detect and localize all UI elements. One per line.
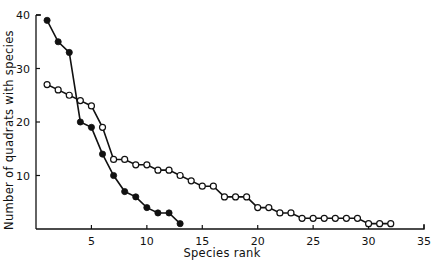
data-point [99,151,105,157]
x-tick-label: 5 [88,235,95,248]
series-open-markers [44,82,394,227]
y-tick-label: 30 [16,63,30,76]
data-point [111,156,117,162]
x-tick-label: 25 [306,235,320,248]
data-point [299,215,305,221]
data-point [388,221,394,227]
data-point [122,156,128,162]
data-point [288,210,294,216]
series-layer [44,17,394,226]
data-point [88,103,94,109]
series-line [47,85,391,224]
series-filled-markers [44,17,183,226]
data-point [111,172,117,178]
data-point [266,205,272,211]
y-axis-label: Number of quadrats with species [2,30,16,230]
data-point [321,215,327,221]
data-point [332,215,338,221]
x-tick-label: 35 [417,235,431,248]
data-point [66,49,72,55]
y-tick-label: 10 [16,170,30,183]
data-point [377,221,383,227]
x-tick-label: 10 [140,235,154,248]
species-rank-chart: 5101520253035 10203040 Species rank Numb… [0,0,438,264]
data-point [354,215,360,221]
data-point [44,82,50,88]
data-point [144,162,150,168]
data-point [100,124,106,130]
data-point [310,215,316,221]
data-point [188,178,194,184]
x-axis-label: Species rank [183,246,260,260]
data-point [166,210,172,216]
x-tick-label: 30 [362,235,376,248]
data-point [88,124,94,130]
data-point [55,39,61,45]
data-point [77,98,83,104]
data-point [144,205,150,211]
data-point [155,167,161,173]
data-point [221,194,227,200]
data-point [133,162,139,168]
data-point [44,17,50,23]
data-point [255,205,261,211]
data-point [277,210,283,216]
data-point [199,183,205,189]
data-point [366,221,372,227]
y-tick-label: 20 [16,116,30,129]
data-point [133,194,139,200]
data-point [244,194,250,200]
data-point [177,221,183,227]
data-point [155,210,161,216]
data-point [166,167,172,173]
data-point [66,92,72,98]
data-point [77,119,83,125]
data-point [122,188,128,194]
data-point [343,215,349,221]
data-point [233,194,239,200]
data-point [177,173,183,179]
data-point [55,87,61,93]
data-point [210,183,216,189]
y-tick-label: 40 [16,9,30,22]
